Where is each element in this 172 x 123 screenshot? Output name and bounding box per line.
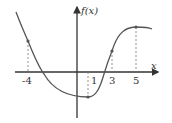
tick-label-1: 1	[91, 75, 97, 86]
marked-points	[26, 25, 137, 98]
dashed-guides	[28, 27, 136, 97]
tick-label-3: 3	[109, 75, 115, 86]
function-graph: f(x) x -4 1 3 5	[0, 0, 172, 123]
y-axis-label: f(x)	[80, 5, 98, 16]
tick-label-neg4: -4	[22, 75, 32, 86]
function-curve	[16, 12, 152, 97]
x-axis-label: x	[151, 60, 157, 71]
tick-label-5: 5	[133, 75, 139, 86]
